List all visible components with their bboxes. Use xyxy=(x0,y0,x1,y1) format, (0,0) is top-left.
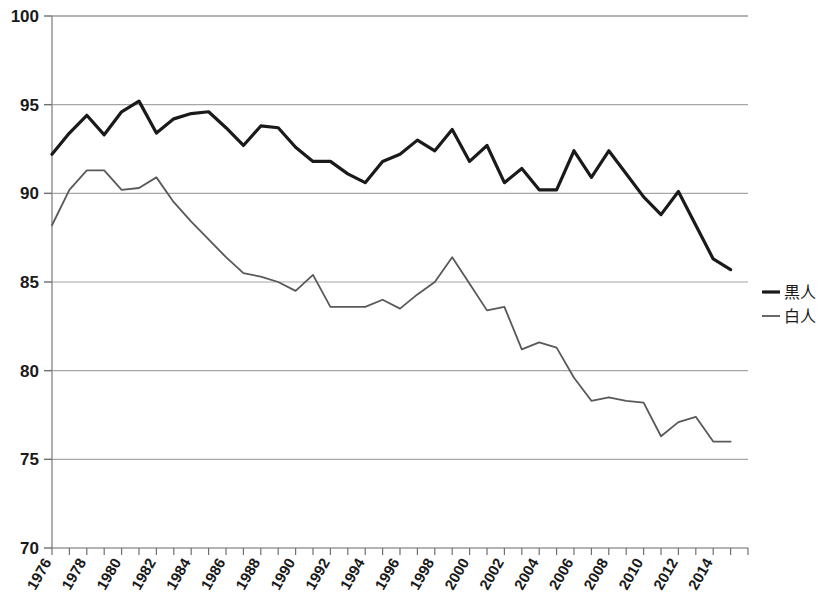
line-chart: 707580859095100 197619781980198219841986… xyxy=(0,0,832,610)
y-tick-label-100: 100 xyxy=(11,7,39,26)
y-tick-label-80: 80 xyxy=(20,362,39,381)
x-tick-label-1988: 1988 xyxy=(232,555,263,592)
legend-label-0: 黒人 xyxy=(784,283,816,302)
y-axis-ticks xyxy=(44,16,52,548)
y-tick-label-75: 75 xyxy=(20,450,39,469)
x-tick-label-1998: 1998 xyxy=(406,555,437,592)
x-tick-label-1980: 1980 xyxy=(93,555,124,592)
x-tick-label-2012: 2012 xyxy=(650,555,681,592)
x-tick-label-2004: 2004 xyxy=(510,554,542,592)
x-tick-label-2000: 2000 xyxy=(441,555,472,592)
x-tick-label-2014: 2014 xyxy=(684,554,716,592)
x-tick-label-2008: 2008 xyxy=(580,555,611,592)
y-tick-label-85: 85 xyxy=(20,273,39,292)
x-tick-label-1994: 1994 xyxy=(336,554,368,592)
x-tick-label-1986: 1986 xyxy=(197,555,228,592)
y-tick-label-90: 90 xyxy=(20,184,39,203)
x-tick-label-1996: 1996 xyxy=(371,555,402,592)
legend-label-1: 白人 xyxy=(784,307,816,326)
x-axis-tick-labels: 1976197819801982198419861988199019921994… xyxy=(23,554,716,592)
x-tick-label-1976: 1976 xyxy=(23,555,54,592)
chart-canvas: 707580859095100 197619781980198219841986… xyxy=(0,0,832,610)
x-tick-label-1992: 1992 xyxy=(302,555,333,592)
x-axis-ticks xyxy=(52,548,748,555)
x-tick-label-2002: 2002 xyxy=(476,555,507,592)
chart-legend: 黒人白人 xyxy=(762,283,816,326)
x-tick-label-2006: 2006 xyxy=(545,555,576,592)
x-tick-label-1990: 1990 xyxy=(267,555,298,592)
x-tick-label-1984: 1984 xyxy=(162,554,194,592)
y-tick-label-95: 95 xyxy=(20,96,39,115)
y-tick-label-70: 70 xyxy=(20,539,39,558)
x-tick-label-2010: 2010 xyxy=(615,555,646,592)
x-tick-label-1978: 1978 xyxy=(58,555,89,592)
x-tick-label-1982: 1982 xyxy=(128,555,159,592)
y-axis-tick-labels: 707580859095100 xyxy=(11,7,39,558)
